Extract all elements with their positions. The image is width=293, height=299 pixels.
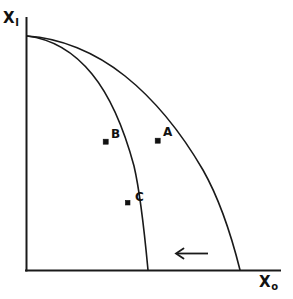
figure-canvas bbox=[0, 0, 293, 299]
point-marker-c bbox=[125, 200, 130, 205]
point-label-c: C bbox=[135, 191, 144, 203]
point-label-a: A bbox=[163, 126, 172, 138]
x-axis-label-subscript: o bbox=[271, 281, 278, 292]
point-marker-a bbox=[155, 138, 160, 143]
point-marker-b bbox=[103, 139, 108, 144]
inner-frontier-curve bbox=[27, 36, 148, 270]
y-axis-label-subscript: I bbox=[15, 17, 19, 28]
point-label-b: B bbox=[111, 128, 120, 140]
x-axis-label: Xo bbox=[259, 275, 278, 290]
ppf-figure: XI Xo A B C bbox=[0, 0, 293, 299]
y-axis-label: XI bbox=[3, 11, 19, 26]
outer-frontier-curve bbox=[27, 36, 240, 270]
y-axis-label-base: X bbox=[3, 9, 15, 27]
x-axis-label-base: X bbox=[259, 273, 271, 291]
